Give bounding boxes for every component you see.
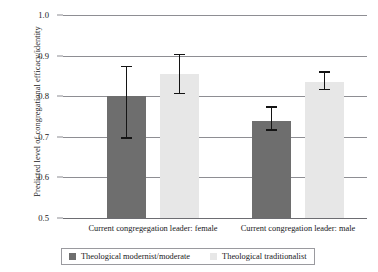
error-bar-cap-top xyxy=(266,106,277,108)
error-bar-cap-bottom xyxy=(319,89,330,91)
gridline-0.9 xyxy=(63,56,367,57)
error-bar-stem xyxy=(324,71,326,90)
gridline-0.5 xyxy=(63,218,367,219)
plot-area: 1.00.90.80.70.60.5 xyxy=(63,15,367,218)
error-bar-stem xyxy=(271,106,273,130)
bar-chart-figure: Predicted level of congregational effica… xyxy=(0,0,378,272)
error-bar-1-0 xyxy=(252,106,291,130)
legend-entry-modernist: Theological modernist/moderate xyxy=(69,252,190,261)
y-tick-label-0.6: 0.6 xyxy=(9,172,49,182)
error-bar-cap-bottom xyxy=(266,129,277,131)
y-tick-label-0.9: 0.9 xyxy=(9,51,49,61)
error-bar-cap-top xyxy=(319,71,330,73)
y-tick-label-0.8: 0.8 xyxy=(9,91,49,101)
legend-label-modernist: Theological modernist/moderate xyxy=(81,252,190,261)
error-bar-stem xyxy=(126,66,128,139)
y-tick-mark-0.6 xyxy=(57,177,63,178)
gridline-1.0 xyxy=(63,15,367,16)
y-tick-mark-0.9 xyxy=(57,55,63,56)
bar-1-1 xyxy=(305,82,344,218)
x-group-label-female: Current congregegation leader: female xyxy=(88,224,217,233)
legend: Theological modernist/moderate Theologic… xyxy=(61,248,315,265)
error-bar-stem xyxy=(179,54,181,95)
y-axis-title: Predicted level of congregational effica… xyxy=(33,7,42,217)
y-tick-label-1.0: 1.0 xyxy=(9,10,49,20)
legend-swatch-icon-modernist xyxy=(69,253,76,260)
legend-entry-traditionalist: Theological traditionalist xyxy=(210,252,306,261)
error-bar-cap-bottom xyxy=(121,137,132,139)
legend-label-traditionalist: Theological traditionalist xyxy=(222,252,306,261)
x-group-label-male: Current congregation leader: male xyxy=(241,224,356,233)
y-tick-label-0.5: 0.5 xyxy=(9,213,49,223)
y-tick-mark-0.5 xyxy=(57,218,63,219)
y-tick-mark-0.7 xyxy=(57,136,63,137)
bar-0-1 xyxy=(160,74,199,218)
error-bar-cap-bottom xyxy=(174,93,185,95)
error-bar-cap-top xyxy=(174,54,185,56)
bar-1-0 xyxy=(252,121,291,218)
y-tick-mark-1.0 xyxy=(57,15,63,16)
legend-swatch-icon-traditionalist xyxy=(210,253,217,260)
error-bar-cap-top xyxy=(121,66,132,68)
y-tick-mark-0.8 xyxy=(57,96,63,97)
error-bar-0-0 xyxy=(107,66,146,139)
y-tick-label-0.7: 0.7 xyxy=(9,132,49,142)
error-bar-0-1 xyxy=(160,54,199,95)
error-bar-1-1 xyxy=(305,71,344,90)
